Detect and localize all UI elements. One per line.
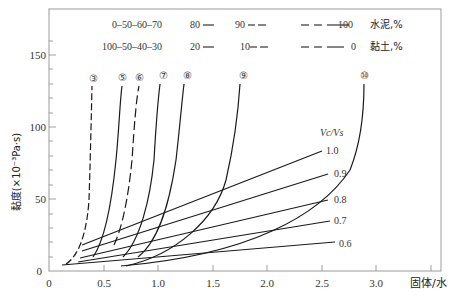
svg-text:100: 100 xyxy=(30,121,47,133)
svg-text:1.0: 1.0 xyxy=(326,145,339,156)
x-tick-labels: 0 0.5 1.0 1.5 2.0 2.5 3.0 xyxy=(46,277,383,289)
svg-text:0.5: 0.5 xyxy=(97,277,111,289)
svg-text:2.5: 2.5 xyxy=(315,277,329,289)
y-axis-title: 黏度(×10⁻³Pa·s) xyxy=(10,133,22,211)
svg-text:100: 100 xyxy=(338,19,353,30)
mix-curves xyxy=(66,84,364,266)
svg-text:50: 50 xyxy=(35,193,47,205)
svg-text:0.6: 0.6 xyxy=(339,238,352,249)
svg-text:20: 20 xyxy=(190,41,200,52)
svg-text:10: 10 xyxy=(240,41,250,52)
svg-text:100–50–40–30: 100–50–40–30 xyxy=(102,41,162,52)
line-vcvs-0-9 xyxy=(82,174,328,251)
svg-text:黏土,%: 黏土,% xyxy=(370,40,403,52)
curve-3 xyxy=(66,86,92,264)
y-tick-labels: 0 50 100 150 xyxy=(30,49,47,277)
y-ticks xyxy=(49,41,56,257)
svg-text:1.5: 1.5 xyxy=(206,277,220,289)
svg-text:⑤: ⑤ xyxy=(118,72,127,83)
legend: 0–50–60–70 80 90 100 水泥,% 100–50–40–30 2… xyxy=(102,18,403,52)
line-vcvs-0-6 xyxy=(62,242,335,265)
svg-text:0.9: 0.9 xyxy=(334,168,347,179)
svg-text:Vc/Vs: Vc/Vs xyxy=(320,127,343,138)
svg-text:90: 90 xyxy=(235,19,245,30)
x-axis-title: 固体/水 xyxy=(410,276,447,290)
svg-text:0: 0 xyxy=(351,41,356,52)
svg-text:⑨: ⑨ xyxy=(239,70,248,81)
line-vcvs-0-8 xyxy=(80,200,328,258)
svg-text:1.0: 1.0 xyxy=(151,277,165,289)
svg-text:水泥,%: 水泥,% xyxy=(370,18,403,30)
curve-7 xyxy=(123,84,160,257)
svg-text:⑦: ⑦ xyxy=(159,70,168,81)
svg-text:0–50–60–70: 0–50–60–70 xyxy=(112,19,162,30)
x-ticks xyxy=(104,265,431,271)
svg-text:150: 150 xyxy=(30,49,47,61)
svg-text:0.7: 0.7 xyxy=(334,215,347,226)
line-vcvs-1-0 xyxy=(82,151,322,245)
viscosity-chart: 0 50 100 150 0 0.5 1.0 1.5 2.0 2.5 3.0 固… xyxy=(0,0,454,301)
svg-text:⑥: ⑥ xyxy=(135,72,144,83)
svg-text:3.0: 3.0 xyxy=(369,277,383,289)
curve-labels: ③ ⑤ ⑥ ⑦ ⑧ ⑨ ⑩ xyxy=(89,70,369,84)
svg-text:0: 0 xyxy=(46,277,52,289)
svg-text:0.8: 0.8 xyxy=(334,194,347,205)
vc-vs-lines xyxy=(62,151,335,265)
curve-6 xyxy=(114,86,139,245)
svg-text:80: 80 xyxy=(190,19,200,30)
svg-text:0: 0 xyxy=(37,265,43,277)
svg-text:③: ③ xyxy=(89,73,98,84)
svg-text:⑧: ⑧ xyxy=(183,70,192,81)
svg-text:2.0: 2.0 xyxy=(260,277,274,289)
svg-text:⑩: ⑩ xyxy=(360,70,369,81)
